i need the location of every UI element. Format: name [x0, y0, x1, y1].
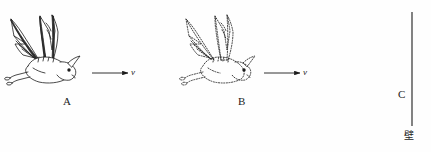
velocity-label-b: v	[303, 68, 307, 77]
bat-b-label: B	[238, 96, 245, 107]
bat-a-label: A	[63, 96, 71, 107]
velocity-label-a: v	[131, 68, 135, 77]
wall-caption: 壁	[404, 131, 414, 141]
wall-label: C	[398, 89, 405, 100]
bat-wall-figure: A B C v v 壁	[0, 0, 431, 152]
vectors-and-wall	[0, 0, 431, 152]
